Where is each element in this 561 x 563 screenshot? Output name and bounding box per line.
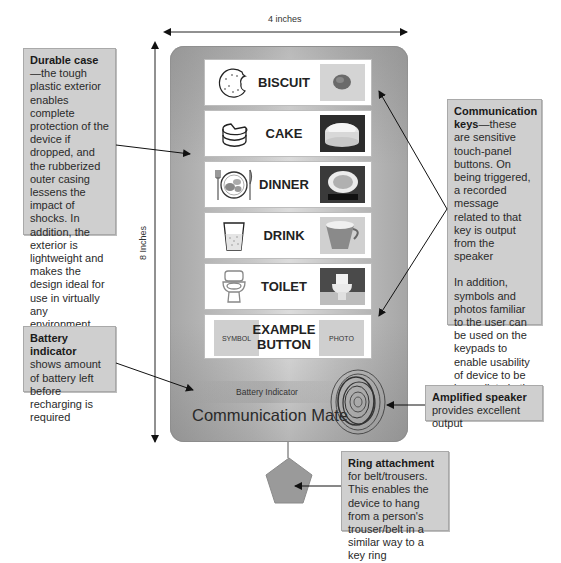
dinner-icon <box>215 166 253 204</box>
drink-icon <box>215 217 253 255</box>
toilet-icon <box>215 268 253 306</box>
ring-attachment-pentagon <box>265 457 313 505</box>
key-toilet[interactable]: TOILET <box>204 263 372 310</box>
width-dimension-label: 4 inches <box>268 14 302 24</box>
cup-photo <box>320 217 365 254</box>
key-label: BISCUIT <box>255 60 313 105</box>
communication-keys-callout: Communication keys—these are sensitive t… <box>447 99 542 325</box>
callout-text: provides excellent output <box>432 404 520 429</box>
amplified-speaker-callout: Amplified speaker provides excellent out… <box>425 385 543 421</box>
dinner-photo <box>320 166 365 203</box>
callout-title: Battery indicator <box>30 332 76 357</box>
toilet-photo <box>320 268 365 305</box>
key-example-button[interactable]: SYMBOL EXAMPLEBUTTON PHOTO <box>204 314 372 359</box>
key-label: TOILET <box>255 264 313 309</box>
cake-icon <box>215 115 253 153</box>
key-label: DINNER <box>255 162 313 207</box>
biscuit-photo <box>320 64 365 101</box>
communication-device: BISCUIT CAKE <box>170 46 408 442</box>
callout-title: Amplified speaker <box>432 391 527 403</box>
battery-indicator-callout: Battery indicator shows amount of batter… <box>23 326 116 392</box>
device-name: Communication Mate <box>192 406 348 425</box>
key-label-line1: EXAMPLE <box>253 322 316 337</box>
key-label: CAKE <box>255 111 313 156</box>
cake-photo <box>320 115 365 152</box>
callout-title: Ring attachment <box>348 457 434 469</box>
durable-case-callout: Durable case—the tough plastic exterior … <box>23 48 116 235</box>
key-dinner[interactable]: DINNER <box>204 161 372 208</box>
ring-attachment-callout: Ring attachment for belt/trousers. This … <box>341 451 449 531</box>
key-label: DRINK <box>255 213 313 258</box>
key-label: EXAMPLEBUTTON <box>255 315 313 358</box>
biscuit-icon <box>215 64 253 102</box>
key-cake[interactable]: CAKE <box>204 110 372 157</box>
callout-title: Durable case <box>30 54 98 66</box>
battery-indicator: Battery Indicator <box>192 381 342 403</box>
callout-text: —the tough plastic exterior enables comp… <box>30 67 109 330</box>
photo-placeholder: PHOTO <box>319 320 364 356</box>
key-biscuit[interactable]: BISCUIT <box>204 59 372 106</box>
callout-text: for belt/trousers. This enables the devi… <box>348 470 429 561</box>
key-label-line2: BUTTON <box>257 337 311 352</box>
speaker-icon <box>328 368 388 436</box>
height-dimension-label: 8 Inches <box>138 218 148 268</box>
callout-text: —these are sensitive touch-panel buttons… <box>454 118 530 262</box>
callout-text: shows amount of battery left before rech… <box>30 358 101 423</box>
key-drink[interactable]: DRINK <box>204 212 372 259</box>
